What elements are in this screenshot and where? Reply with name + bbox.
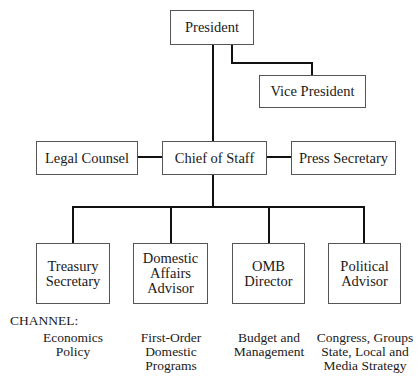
node-chief-of-staff: Chief of Staff <box>162 141 267 175</box>
channel-political: Congress, Groups State, Local and Media … <box>312 331 418 373</box>
node-label: OMB Director <box>244 259 292 289</box>
node-president: President <box>170 10 254 45</box>
node-treasury-secretary: Treasury Secretary <box>36 243 110 304</box>
channel-label: CHANNEL: <box>10 314 78 328</box>
channel-domestic: First-Order Domestic Programs <box>120 331 222 373</box>
node-label: Political Advisor <box>340 259 388 289</box>
node-press-secretary: Press Secretary <box>291 141 396 175</box>
node-label: Domestic Affairs Advisor <box>143 251 199 296</box>
channel-economics: Economics Policy <box>23 331 123 359</box>
node-omb-director: OMB Director <box>232 243 305 304</box>
node-domestic-affairs-advisor: Domestic Affairs Advisor <box>133 243 208 304</box>
node-vice-president: Vice President <box>259 75 366 108</box>
node-label: President <box>185 20 239 35</box>
node-label: Chief of Staff <box>175 151 254 166</box>
node-label: Legal Counsel <box>45 151 129 166</box>
node-legal-counsel: Legal Counsel <box>36 141 138 175</box>
node-label: Press Secretary <box>299 151 388 166</box>
node-label: Treasury Secretary <box>46 259 101 289</box>
node-label: Vice President <box>270 84 354 99</box>
node-political-advisor: Political Advisor <box>328 243 401 304</box>
channel-budget: Budget and Management <box>218 331 320 359</box>
